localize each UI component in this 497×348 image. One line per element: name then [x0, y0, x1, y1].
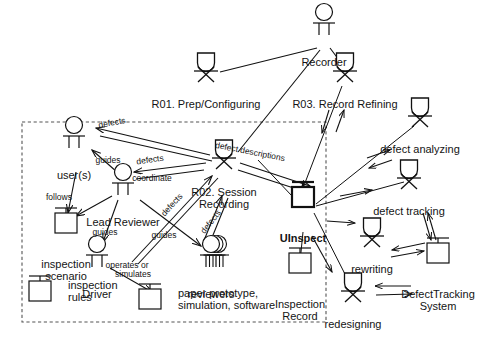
label-defecttracking-system: DefectTrackingSystem: [393, 288, 483, 312]
edge-label-guides-1: guides: [95, 156, 120, 165]
label-inspection-record: InspectionRecord: [255, 298, 345, 322]
edge-label-simulates: simulates: [115, 270, 151, 279]
diagram-canvas: Recorderuser(s)Lead ReviewerDriverreview…: [0, 0, 497, 348]
label-defect-analyzing: defect analyzing: [360, 143, 480, 155]
artifact-uinspect[interactable]: [292, 182, 314, 207]
label-r02: R02. Session Recording: [185, 186, 263, 210]
edge-label-guides-2: guides: [92, 228, 117, 237]
edge-label-coordinate: coordinate: [132, 174, 172, 183]
artifact-defecttracking-system[interactable]: [427, 238, 449, 263]
actor-recorder[interactable]: [313, 4, 335, 36]
label-uinspect: UInspect: [258, 232, 348, 244]
task-defect-tracking[interactable]: [397, 160, 421, 189]
task-defect-analyzing[interactable]: [408, 98, 432, 127]
label-inspection-rules: inspectionrules: [68, 279, 118, 303]
label-recorder: Recorder: [264, 56, 384, 68]
label-r01: R01. Prep/Configuring: [146, 98, 266, 110]
task-r01[interactable]: [194, 53, 218, 82]
label-defect-tracking: defect tracking: [349, 205, 469, 217]
label-users: user(s): [14, 169, 134, 181]
label-r03: R03. Record Refining: [285, 98, 405, 110]
actor-reviewers[interactable]: [200, 236, 229, 268]
edge-label-guides-3: guides: [151, 231, 176, 240]
task-rewriting[interactable]: [360, 218, 384, 247]
label-rewriting: rewriting: [312, 263, 432, 275]
edge-label-follows: follows: [46, 193, 72, 202]
actor-users[interactable]: [63, 117, 85, 149]
artifact-inspection-record[interactable]: [289, 248, 311, 273]
